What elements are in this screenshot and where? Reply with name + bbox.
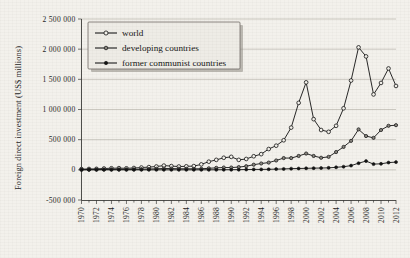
data-point-marker bbox=[275, 168, 278, 171]
data-point-marker bbox=[275, 159, 278, 162]
legend-item-label: world bbox=[122, 28, 144, 38]
data-point-marker bbox=[125, 168, 128, 171]
data-point-marker bbox=[177, 168, 180, 171]
data-point-marker bbox=[357, 46, 361, 50]
data-point-marker bbox=[274, 144, 278, 148]
data-point-marker bbox=[312, 167, 315, 170]
data-point-marker bbox=[372, 136, 375, 139]
data-point-marker bbox=[207, 168, 210, 171]
data-point-marker bbox=[290, 167, 293, 170]
data-point-marker bbox=[297, 167, 300, 170]
x-tick-label: 2008 bbox=[362, 207, 371, 223]
data-point-marker bbox=[350, 164, 353, 167]
y-tick-label: -500 000 bbox=[46, 196, 76, 205]
data-point-marker bbox=[312, 154, 315, 157]
data-point-marker bbox=[349, 79, 353, 83]
data-point-marker bbox=[342, 106, 346, 110]
data-point-marker bbox=[162, 168, 165, 171]
data-point-marker bbox=[110, 168, 113, 171]
y-tick-label: 500 000 bbox=[49, 135, 76, 144]
data-point-marker bbox=[334, 124, 338, 128]
y-tick-label: 2 000 000 bbox=[42, 45, 75, 54]
data-point-marker bbox=[230, 168, 233, 171]
x-tick-label: 1996 bbox=[272, 207, 281, 223]
y-axis-title-text: Foreign direct investment (US$ millions) bbox=[14, 46, 23, 190]
data-point-marker bbox=[335, 150, 338, 153]
data-point-marker bbox=[305, 167, 308, 170]
data-point-marker bbox=[267, 168, 270, 171]
data-point-marker bbox=[394, 124, 397, 127]
data-point-marker bbox=[364, 134, 367, 137]
data-point-marker bbox=[335, 166, 338, 169]
data-point-marker bbox=[117, 168, 120, 171]
data-point-marker bbox=[372, 93, 376, 97]
data-point-marker bbox=[192, 168, 195, 171]
data-point-marker bbox=[342, 145, 345, 148]
data-point-marker bbox=[282, 167, 285, 170]
data-point-marker bbox=[327, 130, 331, 134]
series-developing-countries bbox=[80, 124, 398, 172]
data-point-marker bbox=[260, 162, 263, 165]
x-tick-label: 1988 bbox=[212, 207, 221, 223]
data-point-marker bbox=[282, 138, 286, 142]
data-point-marker bbox=[252, 154, 256, 158]
data-point-marker bbox=[87, 168, 90, 171]
x-tick-label: 1974 bbox=[107, 207, 116, 223]
data-point-marker bbox=[229, 155, 233, 159]
data-point-marker bbox=[95, 168, 98, 171]
legend-marker-icon bbox=[104, 46, 108, 50]
data-point-marker bbox=[320, 167, 323, 170]
x-tick-label: 1990 bbox=[227, 207, 236, 223]
data-point-marker bbox=[214, 158, 218, 162]
data-point-marker bbox=[379, 81, 383, 85]
data-point-marker bbox=[349, 139, 352, 142]
data-point-marker bbox=[357, 162, 360, 165]
data-point-marker bbox=[320, 156, 323, 159]
data-point-marker bbox=[245, 168, 248, 171]
data-point-marker bbox=[387, 67, 391, 71]
data-point-marker bbox=[80, 168, 83, 171]
x-tick-label: 2002 bbox=[317, 207, 326, 223]
series-polyline bbox=[82, 125, 397, 169]
data-point-marker bbox=[155, 168, 158, 171]
data-point-marker bbox=[304, 81, 308, 85]
data-point-marker bbox=[267, 161, 270, 164]
data-point-marker bbox=[319, 128, 323, 132]
data-point-marker bbox=[342, 165, 345, 168]
legend-marker-icon bbox=[104, 61, 107, 64]
legend-item-label: former communist countries bbox=[122, 58, 227, 68]
data-point-marker bbox=[372, 163, 375, 166]
data-point-marker bbox=[289, 126, 293, 130]
data-point-marker bbox=[185, 168, 188, 171]
data-point-marker bbox=[207, 160, 211, 164]
x-tick-label: 1982 bbox=[167, 207, 176, 223]
data-point-marker bbox=[297, 154, 300, 157]
x-tick-label: 1976 bbox=[122, 207, 131, 223]
data-point-marker bbox=[327, 166, 330, 169]
data-point-marker bbox=[297, 101, 301, 105]
data-point-marker bbox=[222, 168, 225, 171]
data-point-marker bbox=[379, 128, 382, 131]
data-point-marker bbox=[237, 158, 241, 162]
data-point-marker bbox=[147, 168, 150, 171]
chart-canvas: Foreign direct investment (US$ millions)… bbox=[0, 0, 410, 258]
data-point-marker bbox=[380, 162, 383, 165]
data-point-marker bbox=[327, 155, 330, 158]
y-tick-label: 1 000 000 bbox=[42, 105, 75, 114]
data-point-marker bbox=[245, 165, 248, 168]
data-point-marker bbox=[102, 168, 105, 171]
data-point-marker bbox=[312, 117, 316, 121]
x-tick-label: 2006 bbox=[347, 207, 356, 223]
data-point-marker bbox=[394, 84, 398, 88]
data-point-marker bbox=[222, 156, 226, 160]
data-point-marker bbox=[132, 168, 135, 171]
data-point-marker bbox=[140, 168, 143, 171]
x-tick-label: 1992 bbox=[242, 207, 251, 223]
data-point-marker bbox=[267, 147, 271, 151]
data-point-marker bbox=[170, 168, 173, 171]
x-tick-label: 2000 bbox=[302, 207, 311, 223]
y-tick-group: 2 500 0002 000 0001 500 0001 000 000500 … bbox=[42, 15, 81, 205]
chart-legend[interactable]: worlddeveloping countriesformer communis… bbox=[88, 22, 243, 72]
data-point-marker bbox=[387, 161, 390, 164]
x-tick-label: 1978 bbox=[137, 207, 146, 223]
